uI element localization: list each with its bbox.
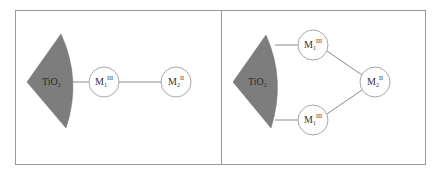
panel-right: TiO2 M1III M1III M2II [233, 30, 390, 135]
panel-left: TiO2 M1III M2II [27, 34, 191, 128]
bond-m1-bottom-m2 [327, 90, 362, 114]
node-m1-top: M1III [298, 30, 328, 60]
bond-m1-top-m2 [327, 51, 362, 75]
node-m2: M2II [360, 67, 390, 97]
node-m1: M1III [89, 67, 119, 97]
diagram-canvas: TiO2 M1III M2II TiO2 M1III M1III M [0, 0, 442, 174]
node-m2: M2II [161, 67, 191, 97]
node-m1-bottom: M1III [298, 105, 328, 135]
